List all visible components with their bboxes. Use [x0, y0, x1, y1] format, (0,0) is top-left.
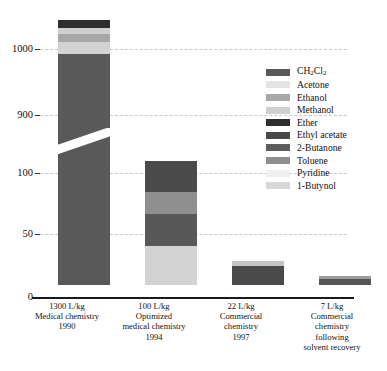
legend-swatch-icon [266, 144, 290, 151]
y-tick-label-1000: 1000 [12, 44, 33, 55]
legend-label: Acetone [297, 80, 329, 90]
legend-item-2-butanone[interactable]: 2-Butanone [266, 142, 347, 155]
legend-label: Methanol [297, 105, 334, 115]
bar-segment-ether [58, 20, 110, 28]
legend-swatch-icon [266, 107, 290, 114]
xlabel-line: Commercial [280, 311, 384, 321]
legend-item-ether[interactable]: Ether [266, 116, 347, 129]
legend-swatch-icon [266, 157, 290, 164]
chart-legend: CH2Cl2AcetoneEthanolMethanolEtherEthyl a… [266, 66, 347, 192]
y-tick-mark-1000 [35, 49, 40, 50]
legend-label: Ethyl acetate [297, 130, 347, 140]
bar-segment-ethyl-acetate [145, 161, 197, 192]
legend-item-acetone[interactable]: Acetone [266, 79, 347, 92]
x-axis-line [32, 297, 354, 299]
legend-swatch-icon [266, 182, 290, 189]
stacked-bar-chart: 1000900100500 1300 L/kgMedical chemistry… [0, 0, 387, 371]
xlabel-line: 7 L/kg [280, 301, 384, 311]
legend-item-ethanol[interactable]: Ethanol [266, 91, 347, 104]
legend-label: Ethanol [297, 93, 327, 103]
legend-label: Ether [297, 118, 318, 128]
legend-item-1-butynol[interactable]: 1-Butynol [266, 179, 347, 192]
xlabel-line: Commercial [198, 311, 284, 321]
legend-label: Toluene [297, 156, 328, 166]
xlabel-line: 1994 [108, 332, 200, 342]
xlabel-recovery: 7 L/kgCommercialchemistryfollowingsolven… [280, 301, 384, 352]
legend-label: Pyridine [297, 168, 330, 178]
y-axis-break-slash [57, 128, 111, 158]
xlabel-line: 1997 [198, 332, 284, 342]
xlabel-line: 1990 [24, 321, 110, 331]
bar-segment-ethanol [58, 34, 110, 42]
y-tick-label-100: 100 [17, 168, 33, 179]
bar-segment-ch2cl2 [319, 279, 371, 285]
xlabel-line: chemistry [198, 321, 284, 331]
y-tick-mark-50 [35, 234, 40, 235]
axis-break-mark [57, 128, 111, 158]
legend-item-ch2cl2[interactable]: CH2Cl2 [266, 66, 347, 79]
xlabel-line: 22 L/kg [198, 301, 284, 311]
xlabel-1990: 1300 L/kgMedical chemistry1990 [24, 301, 110, 332]
y-tick-mark-100 [35, 173, 40, 174]
xlabel-1994: 100 L/kgOptimizedmedical chemistry1994 [108, 301, 200, 342]
xlabel-1997: 22 L/kgCommercialchemistry1997 [198, 301, 284, 342]
legend-item-ethyl-acetate[interactable]: Ethyl acetate [266, 129, 347, 142]
bar-segment-acetone [58, 42, 110, 54]
legend-swatch-icon [266, 119, 290, 126]
legend-item-toluene[interactable]: Toluene [266, 154, 347, 167]
legend-swatch-icon [266, 69, 290, 76]
xlabel-line: following [280, 332, 384, 342]
legend-label: CH2Cl2 [297, 66, 326, 79]
y-tick-mark-900 [35, 115, 40, 116]
legend-label: 1-Butynol [297, 181, 336, 191]
legend-label: 2-Butanone [297, 143, 342, 153]
bar-segment-ch2cl2 [58, 54, 110, 285]
bar-segment-2-butanone [145, 214, 197, 246]
legend-item-methanol[interactable]: Methanol [266, 104, 347, 117]
xlabel-line: medical chemistry [108, 321, 200, 331]
legend-swatch-icon [266, 94, 290, 101]
legend-swatch-icon [266, 132, 290, 139]
xlabel-line: chemistry [280, 321, 384, 331]
xlabel-line: solvent recovery [280, 342, 384, 352]
bar-segment-toluene [145, 192, 197, 214]
bar-1994 [145, 0, 197, 297]
y-tick-label-900: 900 [17, 110, 33, 121]
xlabel-line: Optimized [108, 311, 200, 321]
xlabel-line: Medical chemistry [24, 311, 110, 321]
xlabel-line: 1300 L/kg [24, 301, 110, 311]
bar-segment-ch2cl2 [232, 266, 284, 285]
xlabel-line: 100 L/kg [108, 301, 200, 311]
legend-swatch-icon [266, 81, 290, 88]
bar-segment-1-butynol [145, 246, 197, 285]
legend-item-pyridine[interactable]: Pyridine [266, 167, 347, 180]
y-tick-label-50: 50 [23, 229, 34, 240]
legend-swatch-icon [266, 170, 290, 177]
